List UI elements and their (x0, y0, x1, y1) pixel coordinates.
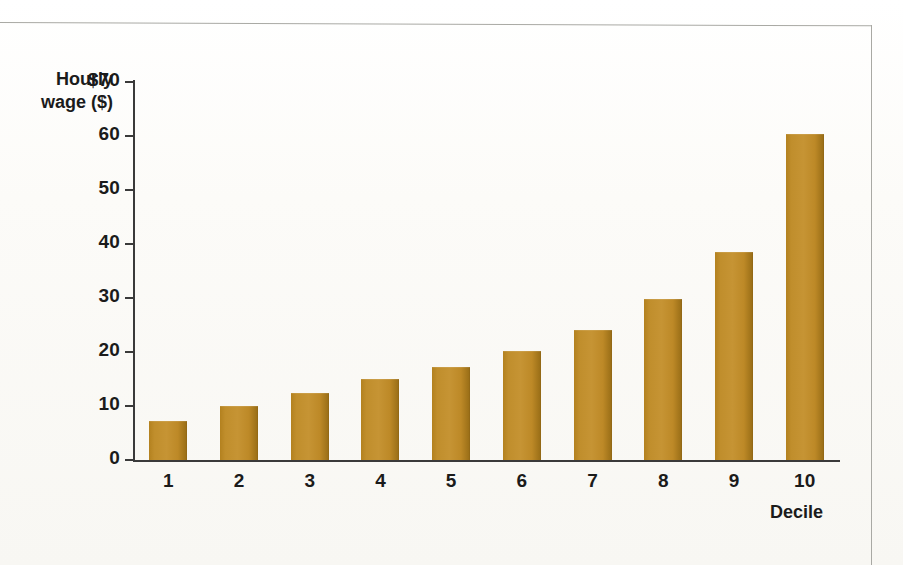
x-axis-tick-label: 6 (492, 470, 552, 492)
y-axis-tick-mark (125, 243, 134, 245)
y-axis-tick-mark (125, 81, 134, 83)
x-axis-title: Decile (770, 502, 823, 523)
y-axis-title-line-2: wage ($) (41, 92, 113, 112)
y-axis-tick-mark (125, 297, 134, 299)
y-axis-tick-mark (125, 189, 134, 191)
y-axis-tick-label: 10 (40, 393, 120, 415)
bar (149, 421, 187, 460)
bar (503, 351, 541, 460)
y-axis-line (133, 80, 135, 461)
bar (291, 393, 329, 461)
bar (220, 406, 258, 460)
bar (432, 367, 470, 460)
x-axis-tick-label: 7 (563, 470, 623, 492)
y-axis-tick-mark (125, 135, 134, 137)
figure-frame-top-border (0, 22, 872, 26)
x-axis-tick-label: 1 (138, 470, 198, 492)
bar (715, 252, 753, 460)
y-axis-tick-label: 20 (40, 339, 120, 361)
figure-frame-right-border (871, 25, 872, 565)
x-axis-tick-label: 5 (421, 470, 481, 492)
y-axis-tick-label: 0 (40, 447, 120, 469)
x-axis-tick-label: 4 (350, 470, 410, 492)
bar (644, 299, 682, 460)
y-axis-tick-mark (125, 459, 134, 461)
y-axis-tick-mark (125, 351, 134, 353)
y-axis-tick-mark (125, 405, 134, 407)
x-axis-tick-label: 10 (775, 470, 835, 492)
bar (361, 379, 399, 460)
y-axis-tick-label: 50 (40, 177, 120, 199)
y-axis-tick-label: 40 (40, 231, 120, 253)
x-axis-tick-label: 8 (633, 470, 693, 492)
x-axis-line (133, 460, 840, 462)
x-axis-tick-label: 3 (280, 470, 340, 492)
bar (786, 134, 824, 460)
y-axis-tick-label: 60 (40, 123, 120, 145)
bar (574, 330, 612, 460)
x-axis-tick-label: 2 (209, 470, 269, 492)
y-axis-tick-label: $70 (40, 69, 120, 91)
figure-canvas: Hourly wage ($) 0102030405060$70 1234567… (0, 0, 903, 565)
y-axis-tick-label: 30 (40, 285, 120, 307)
x-axis-tick-label: 9 (704, 470, 764, 492)
